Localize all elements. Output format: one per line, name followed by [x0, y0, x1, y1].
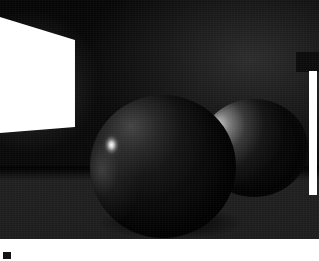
caption-bullet-mark: ■	[3, 252, 11, 259]
right-edge-light-strip	[309, 71, 317, 195]
right-edge-dark-cap	[296, 52, 319, 72]
caption-area: ■	[0, 239, 319, 261]
rendered-image-plate	[0, 0, 319, 239]
figure-root: ■	[0, 0, 319, 261]
foreground-sphere	[90, 95, 236, 238]
